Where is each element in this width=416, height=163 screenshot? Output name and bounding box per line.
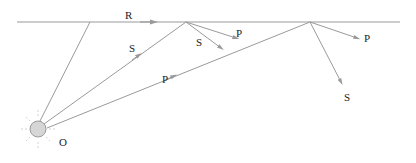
- ray-p-reflect-1: [186, 22, 236, 38]
- ray-p-incident: [47, 22, 310, 128]
- label-p-reflect-2: P: [364, 32, 370, 44]
- source-circle: [30, 121, 46, 137]
- label-r: R: [125, 9, 133, 21]
- wave-diagram: R S P S P P S O: [0, 0, 416, 163]
- s-incident-arrow: [132, 55, 139, 60]
- label-p-reflect-1: P: [236, 27, 242, 39]
- ray-unlabeled: [40, 22, 90, 121]
- ray-s-reflect-1: [186, 22, 221, 48]
- label-s-reflect-2: S: [344, 91, 350, 103]
- label-source: O: [59, 136, 67, 148]
- label-s-reflect-1: S: [196, 36, 202, 48]
- label-s-incident: S: [129, 42, 135, 54]
- label-p-incident: P: [162, 73, 168, 85]
